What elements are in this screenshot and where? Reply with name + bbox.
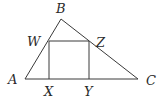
label-w: W xyxy=(27,34,42,49)
triangle-diagram: B W Z A C X Y xyxy=(0,0,162,101)
label-b: B xyxy=(55,1,66,16)
vertex-labels: B W Z A C X Y xyxy=(7,1,156,99)
triangle-abc xyxy=(25,19,138,79)
label-c: C xyxy=(146,73,156,88)
label-y: Y xyxy=(84,84,94,99)
label-a: A xyxy=(7,72,17,87)
segment-ab xyxy=(25,19,61,79)
rectangle-wxyz xyxy=(49,41,89,79)
label-z: Z xyxy=(95,35,106,50)
label-x: X xyxy=(43,84,54,99)
